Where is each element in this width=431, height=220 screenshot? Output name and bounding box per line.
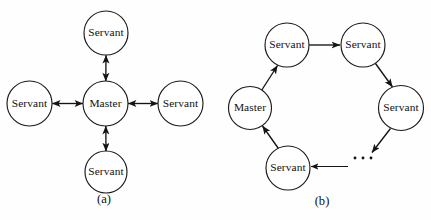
b-node-top-right[interactable]: Servant: [341, 23, 385, 67]
a-node-south-label: Servant: [88, 165, 124, 177]
b-node-top-right-label: Servant: [345, 38, 381, 50]
topology-diagram: Servant Servant Master Servant Servant (…: [0, 0, 431, 220]
a-node-south[interactable]: Servant: [85, 151, 127, 193]
panel-a-caption: (a): [97, 192, 111, 206]
b-edge-bottom-to-master: [263, 126, 280, 150]
b-ellipsis-dot-3: [370, 157, 373, 160]
a-node-west-label: Servant: [12, 97, 48, 109]
panel-b-caption: (b): [315, 194, 330, 208]
panel-a: Servant Servant Master Servant Servant (…: [7, 11, 203, 206]
panel-b: Master Servant Servant Servant Servant: [229, 23, 424, 208]
a-node-west[interactable]: Servant: [7, 81, 52, 126]
b-node-right[interactable]: Servant: [379, 86, 424, 131]
b-edge-topright-to-right: [376, 64, 393, 88]
b-node-right-label: Servant: [383, 101, 419, 113]
b-node-master-label: Master: [234, 101, 266, 113]
figure-container: Servant Servant Master Servant Servant (…: [0, 0, 431, 220]
b-ellipsis: [354, 157, 373, 160]
a-node-master-label: Master: [89, 97, 121, 109]
b-node-top-left[interactable]: Servant: [265, 23, 309, 67]
b-ellipsis-dot-2: [362, 157, 365, 160]
a-node-master[interactable]: Master: [83, 81, 128, 126]
a-node-east[interactable]: Servant: [158, 81, 203, 126]
b-node-bottom[interactable]: Servant: [266, 146, 310, 190]
b-edge-right-to-ellipsis: [372, 129, 391, 153]
b-node-bottom-label: Servant: [270, 161, 306, 173]
b-node-top-left-label: Servant: [269, 38, 305, 50]
b-ellipsis-dot-1: [354, 157, 357, 160]
a-node-north[interactable]: Servant: [84, 11, 128, 55]
b-node-master[interactable]: Master: [229, 87, 272, 130]
b-edge-master-to-topleft: [262, 66, 278, 91]
a-node-east-label: Servant: [163, 97, 199, 109]
a-node-north-label: Servant: [88, 26, 124, 38]
